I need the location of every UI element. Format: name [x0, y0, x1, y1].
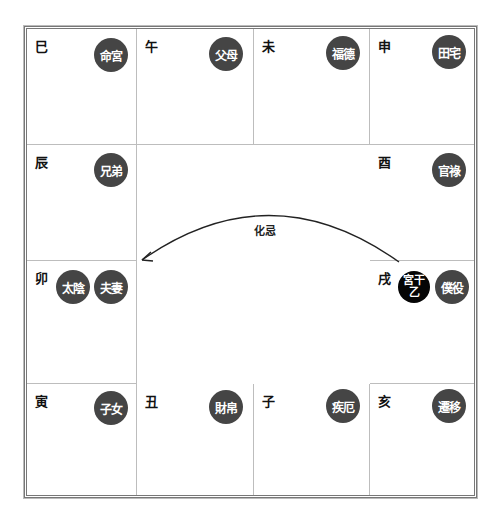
- transformation-label: 化忌: [254, 222, 276, 238]
- transformation-arrow: [0, 0, 503, 523]
